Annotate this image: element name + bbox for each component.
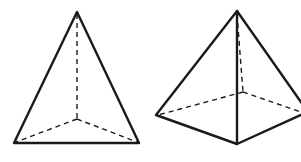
square-pyramid (156, 11, 301, 144)
visible-edges-outline (156, 11, 301, 144)
geometry-diagram (0, 0, 301, 162)
hidden-edge (243, 92, 301, 112)
triangular-pyramid (14, 12, 139, 143)
